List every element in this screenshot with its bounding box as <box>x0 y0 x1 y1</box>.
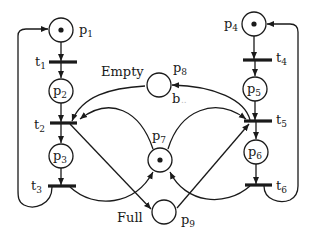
token-p4 <box>251 21 256 26</box>
label-p8: p8 <box>173 60 187 77</box>
arc-p7-t5 <box>168 108 246 149</box>
label-t3: t3 <box>31 178 42 195</box>
arc-t6-p7 <box>170 172 250 200</box>
petri-net-diagram: p1 p2 p3 p4 p5 p6 p7 p8 p9 t1 t2 t3 t4 t… <box>0 0 314 242</box>
arc-t2-p9 <box>70 124 151 209</box>
label-t2: t2 <box>34 117 45 134</box>
place-p8 <box>147 73 171 97</box>
arc-p8-t2 <box>72 86 145 121</box>
label-t4: t4 <box>276 50 287 67</box>
label-p9: p9 <box>181 212 195 229</box>
label-empty: Empty <box>101 64 144 79</box>
label-t1: t1 <box>35 54 46 71</box>
arc-p7-t2 <box>80 108 153 149</box>
label-t5: t5 <box>276 112 287 129</box>
label-p7: p7 <box>152 128 166 145</box>
label-b: b <box>172 91 180 106</box>
label-full: Full <box>117 210 143 225</box>
arc-t3-p7 <box>70 172 153 201</box>
arc-p9-t5 <box>177 124 249 208</box>
token-p1 <box>58 27 63 32</box>
place-p9 <box>152 200 176 224</box>
label-b-dots: .. <box>181 95 187 105</box>
label-p1: p1 <box>79 22 93 39</box>
label-p4: p4 <box>224 16 238 33</box>
label-t6: t6 <box>276 178 287 195</box>
token-p7 <box>157 157 162 162</box>
